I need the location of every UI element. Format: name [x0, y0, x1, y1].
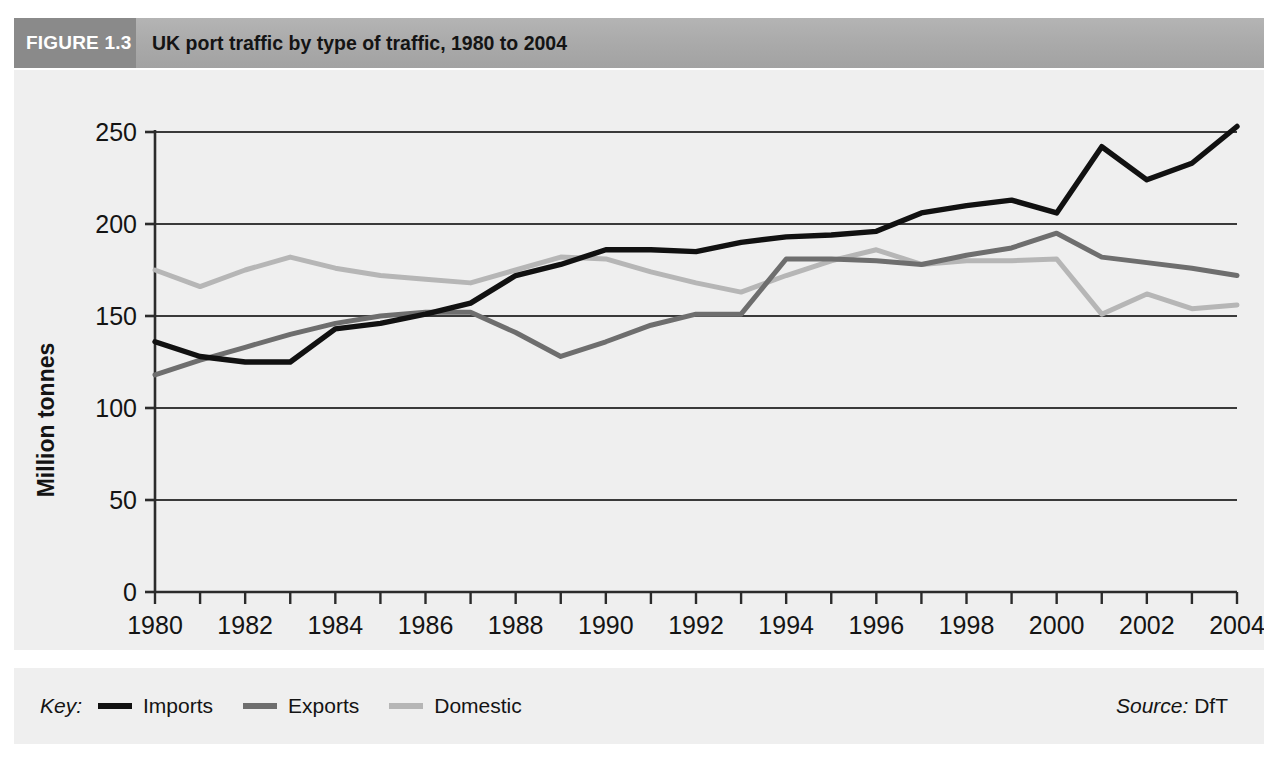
svg-text:50: 50	[109, 486, 137, 514]
axes-group	[155, 130, 1237, 592]
source-value: DfT	[1188, 694, 1228, 717]
y-axis-title: Million tonnes	[33, 343, 59, 498]
key-entry-imports: Imports	[98, 694, 213, 718]
data-series-group	[155, 126, 1237, 374]
x-tick-marks	[155, 592, 1237, 604]
figure-number-tag: FIGURE 1.3	[14, 18, 136, 68]
key-text-exports: Exports	[288, 694, 359, 718]
key-entry-domestic: Domestic	[389, 694, 522, 718]
source-prefix: Source:	[1116, 694, 1188, 717]
key-text-imports: Imports	[143, 694, 213, 718]
svg-text:2002: 2002	[1119, 611, 1175, 639]
figure-title: UK port traffic by type of traffic, 1980…	[136, 32, 567, 55]
key-swatch-exports-icon	[243, 703, 277, 709]
key-text-domestic: Domestic	[434, 694, 522, 718]
svg-text:150: 150	[95, 302, 137, 330]
svg-text:200: 200	[95, 210, 137, 238]
key-entry-exports: Exports	[243, 694, 359, 718]
svg-text:1998: 1998	[939, 611, 995, 639]
svg-text:1980: 1980	[127, 611, 183, 639]
svg-text:250: 250	[95, 118, 137, 146]
source-credit: Source: DfT	[1116, 694, 1228, 718]
svg-text:2000: 2000	[1029, 611, 1085, 639]
svg-text:1994: 1994	[758, 611, 814, 639]
figure-container: FIGURE 1.3 UK port traffic by type of tr…	[0, 0, 1278, 782]
key-label: Key:	[40, 694, 82, 718]
figure-header-band: FIGURE 1.3 UK port traffic by type of tr…	[14, 18, 1264, 68]
bottom-margin-strip	[0, 744, 1278, 782]
svg-text:1996: 1996	[849, 611, 905, 639]
line-chart: 050100150200250 198019821984198619881990…	[14, 70, 1264, 650]
svg-text:0: 0	[123, 578, 137, 606]
chart-panel: 050100150200250 198019821984198619881990…	[14, 70, 1264, 650]
svg-text:1984: 1984	[308, 611, 364, 639]
svg-text:1986: 1986	[398, 611, 454, 639]
svg-text:1992: 1992	[668, 611, 724, 639]
key-swatch-imports-icon	[98, 703, 132, 709]
svg-text:100: 100	[95, 394, 137, 422]
x-axis-tick-labels: 1980198219841986198819901992199419961998…	[127, 611, 1264, 639]
key-swatch-domestic-icon	[389, 703, 423, 709]
y-axis-tick-labels: 050100150200250	[95, 118, 155, 606]
svg-text:2004: 2004	[1209, 611, 1264, 639]
svg-text:1990: 1990	[578, 611, 634, 639]
svg-text:1988: 1988	[488, 611, 544, 639]
chart-key-row: Key: Imports Exports Domestic Source: Df…	[14, 668, 1264, 744]
svg-text:1982: 1982	[217, 611, 273, 639]
